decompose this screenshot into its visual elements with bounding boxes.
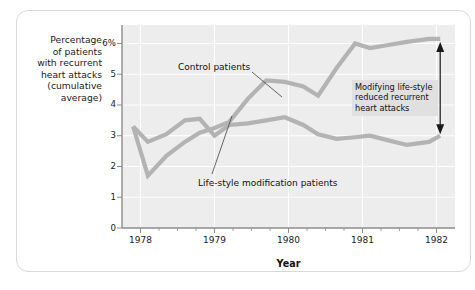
y-tick-label-2: 2: [90, 162, 116, 171]
chart-figure: Percentage of patients with recurrent he…: [0, 0, 475, 290]
plot-area: [122, 25, 455, 228]
x-tick-label-1982: 1982: [415, 235, 459, 245]
series-label-lifestyle: Life-style modification patients: [198, 178, 337, 188]
x-tick-label-1978: 1978: [119, 235, 163, 245]
y-tick-label-4: 4: [90, 100, 116, 109]
annotation-line-2: reduced recurrent: [355, 92, 435, 102]
y-tick-label-0: 0: [90, 224, 116, 233]
y-tick-label-3: 3: [90, 131, 116, 140]
y-tick-label-6%: 6%: [90, 39, 116, 48]
x-tick-label-1981: 1981: [341, 235, 385, 245]
series-line-lifestyle: [133, 117, 440, 145]
y-axis-title-line-3: with recurrent: [18, 57, 102, 69]
x-tick-label-1980: 1980: [267, 235, 311, 245]
annotation-arrow-head-down: [436, 124, 444, 134]
x-axis-title: Year: [122, 258, 455, 269]
annotation-line-1: Modifying life-style: [355, 82, 435, 92]
annotation-line-3: heart attacks: [355, 103, 435, 113]
y-tick-label-1: 1: [90, 193, 116, 202]
leader-line-control: [252, 72, 282, 97]
series-label-control: Control patients: [178, 62, 250, 72]
x-tick-label-1979: 1979: [193, 235, 237, 245]
y-tick-label-5: 5: [90, 70, 116, 79]
y-axis-title-line-5: (cumulative: [18, 80, 102, 92]
annotation-callout: Modifying life-style reduced recurrent h…: [352, 80, 438, 116]
plot-svg: [122, 25, 455, 228]
